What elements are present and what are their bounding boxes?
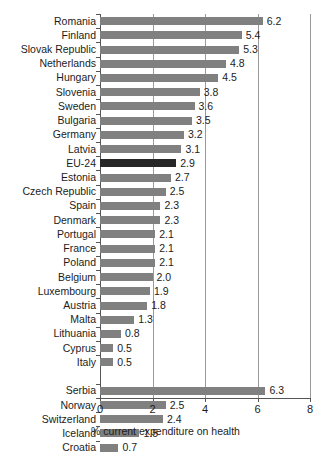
bar-value-label: 2.3: [164, 215, 179, 226]
bar: [100, 358, 113, 366]
bar-value-label: 4.8: [230, 58, 245, 69]
x-tick-label-0: 0: [88, 403, 112, 416]
bar-row: Estonia2.7: [0, 170, 331, 184]
bar-row: Poland2.1: [0, 256, 331, 270]
bar-chart: Romania6.2Finland5.4Slovak Republic5.3Ne…: [0, 0, 331, 453]
y-tick: [96, 270, 100, 271]
bar-value-label: 2.4: [167, 414, 182, 425]
category-label: EU-24: [66, 158, 96, 169]
bar-row: Slovak Republic5.3: [0, 42, 331, 56]
bar-row: Italy0.5: [0, 355, 331, 369]
y-tick: [96, 213, 100, 214]
y-tick: [96, 185, 100, 186]
bar-row: Norway2.5: [0, 398, 331, 412]
y-tick: [96, 384, 100, 385]
bar: [100, 60, 226, 68]
bar-row: Hungary4.5: [0, 71, 331, 85]
bar: [100, 102, 195, 110]
x-tick-label-4: 4: [193, 403, 217, 416]
bar-value-label: 2.5: [170, 400, 185, 411]
bar-row: Malta1.3: [0, 313, 331, 327]
bar: [100, 188, 166, 196]
bar: [100, 31, 242, 39]
bar-row: Croatia0.7: [0, 441, 331, 453]
bar-value-label: 3.5: [196, 115, 211, 126]
bar-row: Latvia3.1: [0, 142, 331, 156]
category-label: Serbia: [66, 385, 96, 396]
category-label: Poland: [63, 257, 96, 268]
bar-value-label: 4.5: [222, 72, 237, 83]
bar-row: Slovenia3.8: [0, 85, 331, 99]
bar-value-label: 2.0: [157, 272, 172, 283]
bar-value-label: 2.7: [175, 172, 190, 183]
category-label: Germany: [53, 129, 96, 140]
bar-row: Netherlands4.8: [0, 57, 331, 71]
bar-value-label: 2.1: [159, 229, 174, 240]
bar: [100, 415, 163, 423]
category-label: Latvia: [68, 144, 96, 155]
bar-row: Serbia6.3: [0, 384, 331, 398]
category-label: Romania: [54, 16, 96, 27]
bar-value-label: 6.2: [267, 16, 282, 27]
y-tick: [96, 398, 100, 399]
bar-row: Denmark2.3: [0, 213, 331, 227]
bar: [100, 145, 181, 153]
bar: [100, 117, 192, 125]
y-tick: [96, 85, 100, 86]
y-tick: [96, 114, 100, 115]
y-tick: [96, 313, 100, 314]
category-label: Netherlands: [39, 58, 96, 69]
bar-value-label: 2.1: [159, 257, 174, 268]
bar-value-label: 2.5: [170, 186, 185, 197]
bar-row: Finland5.4: [0, 28, 331, 42]
x-axis-title: % current expenditure on health: [0, 425, 331, 438]
bar: [100, 202, 160, 210]
bar-row: Bulgaria3.5: [0, 114, 331, 128]
category-label: Hungary: [56, 72, 96, 83]
bar: [100, 344, 113, 352]
bar-row: EU-242.9: [0, 156, 331, 170]
bar-row: Spain2.3: [0, 199, 331, 213]
y-tick: [96, 227, 100, 228]
category-label: Croatia: [62, 442, 96, 453]
bar-value-label: 0.8: [125, 328, 140, 339]
bar: [100, 302, 147, 310]
category-label: Slovenia: [56, 87, 96, 98]
bar: [100, 259, 155, 267]
y-tick: [96, 71, 100, 72]
y-tick: [96, 242, 100, 243]
category-label: Luxembourg: [38, 286, 96, 297]
bar: [100, 174, 171, 182]
x-tick-label-6: 6: [246, 403, 270, 416]
bar-value-label: 5.3: [243, 44, 258, 55]
bar: [100, 230, 155, 238]
bar-row: Belgium2.0: [0, 270, 331, 284]
y-tick: [96, 256, 100, 257]
y-tick: [96, 14, 100, 15]
bar-value-label: 6.3: [269, 385, 284, 396]
y-tick: [96, 128, 100, 129]
bar-value-label: 1.9: [154, 286, 169, 297]
bar: [100, 131, 184, 139]
bar-row: Portugal2.1: [0, 227, 331, 241]
bar-value-label: 5.4: [246, 30, 261, 41]
category-label: Austria: [63, 300, 96, 311]
y-tick: [96, 170, 100, 171]
bar-row: Luxembourg1.9: [0, 284, 331, 298]
category-label: Lithuania: [53, 328, 96, 339]
category-label: Italy: [77, 357, 96, 368]
bar: [100, 330, 121, 338]
y-tick: [96, 441, 100, 442]
y-tick: [96, 284, 100, 285]
category-label: Slovak Republic: [21, 44, 96, 55]
bar-value-label: 0.5: [117, 343, 132, 354]
bar-value-label: 2.1: [159, 243, 174, 254]
category-label: Malta: [70, 314, 96, 325]
y-tick: [96, 42, 100, 43]
bar: [100, 273, 153, 281]
category-label: Finland: [62, 30, 96, 41]
bar-row: Germany3.2: [0, 128, 331, 142]
y-tick: [96, 28, 100, 29]
bar-value-label: 2.9: [180, 158, 195, 169]
bar: [100, 287, 150, 295]
